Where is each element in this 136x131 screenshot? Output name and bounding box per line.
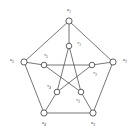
graph-vertex-u1 bbox=[66, 18, 72, 24]
vertex-label-u3: u3 bbox=[91, 121, 95, 127]
graph-edge-u4-v4 bbox=[44, 92, 57, 113]
vertex-label-v5: v5 bbox=[44, 53, 48, 59]
vertex-label-v3: v3 bbox=[76, 98, 80, 104]
graph-vertex-v4 bbox=[54, 89, 60, 95]
graph-vertex-v1 bbox=[66, 43, 72, 49]
graph-vertex-u5 bbox=[21, 59, 27, 65]
vertex-label-u1: u1 bbox=[67, 8, 71, 14]
graph-edge-u3-v3 bbox=[81, 92, 93, 113]
graph-canvas bbox=[0, 0, 136, 131]
vertex-label-v2: v2 bbox=[93, 71, 97, 77]
graph-edge-v4-v1 bbox=[57, 46, 69, 92]
graph-vertex-v2 bbox=[89, 62, 95, 68]
vertex-layer bbox=[21, 18, 116, 116]
graph-vertex-u2 bbox=[110, 59, 116, 65]
graph-edge-v1-v3 bbox=[69, 46, 81, 92]
graph-vertex-v3 bbox=[78, 89, 84, 95]
vertex-label-u5: u5 bbox=[10, 58, 14, 64]
vertex-label-v4: v4 bbox=[47, 84, 51, 90]
graph-edge-u4-u5 bbox=[24, 62, 44, 113]
vertex-label-v1: v1 bbox=[77, 41, 81, 47]
graph-vertex-v5 bbox=[41, 62, 47, 68]
vertex-label-u4: u4 bbox=[42, 121, 46, 127]
vertex-label-u2: u2 bbox=[123, 58, 127, 64]
graph-edge-u1-u2 bbox=[69, 21, 113, 62]
petersen-graph-figure: u1u2u3u4u5v1v2v3v4v5 bbox=[0, 0, 136, 131]
graph-edge-u2-u3 bbox=[93, 62, 113, 113]
edge-layer bbox=[24, 21, 113, 113]
graph-vertex-u4 bbox=[41, 110, 47, 116]
graph-vertex-u3 bbox=[90, 110, 96, 116]
